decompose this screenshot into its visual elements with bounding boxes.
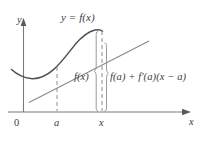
tangent-expression-label: f(a) + f′(a)(x − a) bbox=[110, 72, 186, 83]
brace-tangent-value bbox=[105, 43, 109, 111]
origin-label: 0 bbox=[14, 118, 19, 129]
linear-approximation-figure: y = f(x) f(x) f(a) + f′(a)(x − a) y x 0 … bbox=[0, 0, 202, 143]
curve-equation-label: y = f(x) bbox=[61, 12, 95, 23]
y-axis bbox=[21, 18, 27, 112]
x-axis-label: x bbox=[189, 117, 194, 128]
brace-function-value bbox=[94, 32, 98, 112]
y-axis-label: y bbox=[17, 15, 22, 26]
x-tick-label-x: x bbox=[99, 118, 104, 129]
brace-fx-path bbox=[94, 32, 98, 112]
brace-tangent-path bbox=[105, 43, 109, 111]
x-tick-label-a: a bbox=[54, 118, 59, 129]
x-axis bbox=[8, 109, 191, 116]
function-value-label: f(x) bbox=[74, 72, 89, 83]
x-axis-arrowhead bbox=[182, 109, 191, 116]
